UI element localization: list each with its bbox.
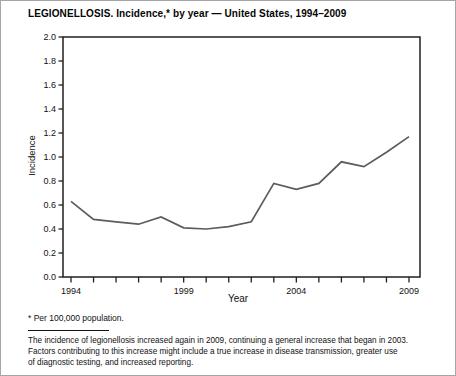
y-tick-label: 1.2 bbox=[43, 128, 56, 138]
caption-line: The incidence of legionellosis increased… bbox=[28, 335, 408, 346]
caption: The incidence of legionellosis increased… bbox=[28, 335, 408, 368]
y-tick-label: 0.0 bbox=[43, 272, 56, 282]
y-tick-label: 0.4 bbox=[43, 224, 56, 234]
y-tick-label: 1.4 bbox=[43, 104, 56, 114]
y-tick-label: 1.0 bbox=[43, 152, 56, 162]
line-chart: 0.00.20.40.60.81.01.21.41.61.82.01994199… bbox=[1, 1, 456, 313]
y-tick-label: 0.2 bbox=[43, 248, 56, 258]
x-tick-label: 2009 bbox=[399, 286, 419, 296]
x-tick-label: 1994 bbox=[61, 286, 81, 296]
y-tick-label: 2.0 bbox=[43, 32, 56, 42]
x-tick-label: 2004 bbox=[286, 286, 306, 296]
caption-line: Factors contributing to this increase mi… bbox=[28, 346, 408, 357]
footnote: * Per 100,000 population. bbox=[28, 313, 124, 323]
y-tick-label: 1.8 bbox=[43, 56, 56, 66]
incidence-line-series bbox=[71, 137, 409, 229]
caption-divider-rule bbox=[28, 330, 109, 331]
y-tick-label: 1.6 bbox=[43, 80, 56, 90]
y-tick-label: 0.6 bbox=[43, 200, 56, 210]
caption-line: of diagnostic testing, and increased rep… bbox=[28, 357, 408, 368]
y-axis-label: Incidence bbox=[26, 126, 37, 186]
plot-frame bbox=[63, 37, 420, 277]
figure-legionellosis-incidence: LEGIONELLOSIS. Incidence,* by year — Uni… bbox=[0, 0, 456, 376]
y-tick-label: 0.8 bbox=[43, 176, 56, 186]
x-axis-label: Year bbox=[188, 293, 288, 304]
